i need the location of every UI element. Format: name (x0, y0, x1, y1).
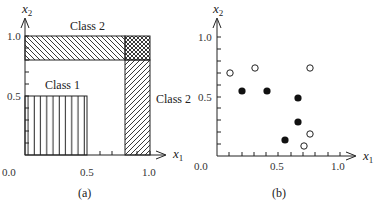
caption-a: (a) (78, 186, 91, 200)
y-ticks (217, 37, 221, 144)
class2-right-region (125, 60, 150, 155)
class1-label: Class 1 (45, 78, 80, 92)
overlap-region (125, 36, 150, 60)
class2-top-region (25, 36, 125, 60)
y-tick-1.0: 1.0 (7, 30, 21, 42)
filled-points (238, 87, 301, 143)
open-point-icon (307, 131, 313, 137)
x-tick-1.0: 1.0 (331, 160, 345, 172)
x-tick-1.0: 1.0 (142, 166, 156, 178)
figure: 0.0 0.5 1.0 0.5 1.0 x2 x1 Class 2 Class … (0, 0, 381, 208)
filled-point-icon (294, 118, 301, 125)
x-tick-0.5: 0.5 (80, 166, 94, 178)
x-tick-0.5: 0.5 (270, 160, 284, 172)
x-axis-label: x1 (362, 148, 373, 165)
filled-point-icon (294, 94, 301, 101)
filled-point-icon (263, 87, 270, 94)
class2-top-label: Class 2 (70, 19, 105, 33)
origin-label: 0.0 (2, 166, 16, 178)
x-axis-label: x1 (172, 146, 183, 163)
panel-b: 0.0 0.5 1.0 0.5 1.0 x2 x1 (b) (194, 1, 373, 200)
open-point-icon (301, 143, 307, 149)
filled-point-icon (238, 87, 245, 94)
open-point-icon (227, 70, 233, 76)
open-point-icon (307, 65, 313, 71)
y-axis-label: x2 (21, 1, 32, 18)
y-tick-0.5: 0.5 (198, 91, 212, 103)
open-points (227, 65, 313, 149)
class2-right-label: Class 2 (156, 92, 191, 106)
y-tick-0.5: 0.5 (7, 90, 21, 102)
open-point-icon (252, 65, 258, 71)
origin-label: 0.0 (194, 160, 208, 172)
x-ticks (229, 152, 340, 156)
filled-point-icon (281, 136, 288, 143)
caption-b: (b) (272, 186, 286, 200)
y-tick-1.0: 1.0 (198, 31, 212, 43)
y-axis-label: x2 (212, 1, 223, 18)
panel-a: 0.0 0.5 1.0 0.5 1.0 x2 x1 Class 2 Class … (2, 1, 191, 200)
class1-region (25, 96, 87, 155)
